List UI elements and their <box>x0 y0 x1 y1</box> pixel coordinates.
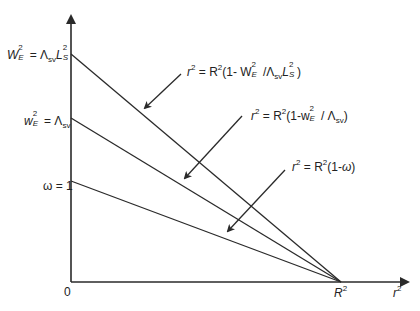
y-label-top: W2E = ΛsvL2S <box>7 49 71 61</box>
equation-2: r2 = R2(1-w2E / Λsv) <box>251 110 348 122</box>
equation-1: r2 = R2(1- W2E /ΛsvL2S) <box>187 66 301 78</box>
y-label-middle: w2E = Λsv <box>24 115 70 127</box>
arrow-eq2 <box>185 116 242 178</box>
line-bottom <box>71 181 341 282</box>
line-middle <box>71 118 341 282</box>
x-axis-label: r2 <box>393 287 401 299</box>
arrow-eq1 <box>145 74 181 108</box>
equation-3: r2 = R2(1-ω) <box>292 161 355 173</box>
arrow-eq3 <box>228 170 285 231</box>
y-label-bottom: ω = 1 <box>43 180 73 192</box>
x-intercept-label: R2 <box>334 287 347 299</box>
origin-label: 0 <box>64 286 71 298</box>
